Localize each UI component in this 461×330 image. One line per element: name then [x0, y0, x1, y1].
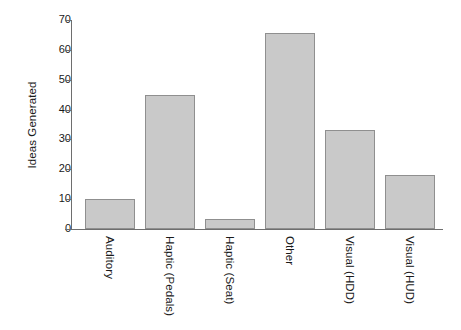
y-axis-line: [71, 20, 72, 230]
y-axis-tick-label: 70: [31, 13, 71, 25]
y-axis-tick-label: 60: [31, 43, 71, 55]
x-axis-tick-label: Other: [282, 236, 296, 330]
y-axis-tick-label: 0: [31, 222, 71, 234]
bar: [265, 33, 315, 229]
y-axis-tick-mark: [65, 229, 71, 230]
x-axis-tick-label: Haptic (Seat): [222, 236, 236, 330]
bar: [385, 175, 435, 229]
bar-chart: Ideas Generated 010203040506070 Auditory…: [0, 0, 461, 330]
bar: [145, 95, 195, 229]
y-axis-tick: 60: [0, 50, 71, 51]
y-axis-tick-mark: [65, 50, 71, 51]
y-axis-tick: 20: [0, 169, 71, 170]
y-axis-tick-mark: [65, 80, 71, 81]
x-axis-tick-label: Haptic (Pedals): [162, 236, 176, 330]
y-axis-tick-mark: [65, 139, 71, 140]
y-axis-tick: 40: [0, 110, 71, 111]
bar: [325, 130, 375, 229]
bar: [85, 199, 135, 229]
x-axis-tick-label: Auditory: [102, 236, 116, 330]
x-axis-tick-label: Visual (HUD): [402, 236, 416, 330]
x-axis-line: [71, 229, 443, 230]
y-axis-tick: 70: [0, 20, 71, 21]
y-axis-tick-label: 10: [31, 192, 71, 204]
y-axis-tick: 10: [0, 199, 71, 200]
bar: [205, 219, 255, 229]
y-axis-tick: 0: [0, 229, 71, 230]
y-axis-tick-label: 30: [31, 132, 71, 144]
y-axis-tick: 50: [0, 80, 71, 81]
y-axis-tick-mark: [65, 199, 71, 200]
y-axis-tick-mark: [65, 169, 71, 170]
y-axis-tick: 30: [0, 139, 71, 140]
x-axis-tick-label: Visual (HDD): [342, 236, 356, 330]
y-axis-tick-label: 20: [31, 162, 71, 174]
y-axis-tick-label: 50: [31, 73, 71, 85]
y-axis-tick-mark: [65, 20, 71, 21]
y-axis-tick-mark: [65, 110, 71, 111]
y-axis-tick-label: 40: [31, 103, 71, 115]
